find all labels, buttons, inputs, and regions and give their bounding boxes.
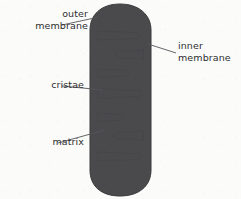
label-matrix: matrix xyxy=(10,136,84,148)
label-inner-membrane: inner membrane xyxy=(178,40,240,63)
mitochondrion-diagram: outer membrane inner membrane cristae ma… xyxy=(0,0,241,199)
label-outer-membrane: outer membrane xyxy=(12,8,88,31)
inner-membrane-cristae xyxy=(97,10,144,190)
crista-4 xyxy=(98,89,142,98)
crista-2 xyxy=(116,50,144,59)
crista-7 xyxy=(98,152,141,161)
leader-inner-membrane xyxy=(148,44,176,53)
crista-6 xyxy=(115,131,144,140)
crista-1 xyxy=(98,31,139,40)
crista-5 xyxy=(98,113,123,122)
crista-3 xyxy=(98,69,129,78)
label-cristae: cristae xyxy=(10,79,84,91)
